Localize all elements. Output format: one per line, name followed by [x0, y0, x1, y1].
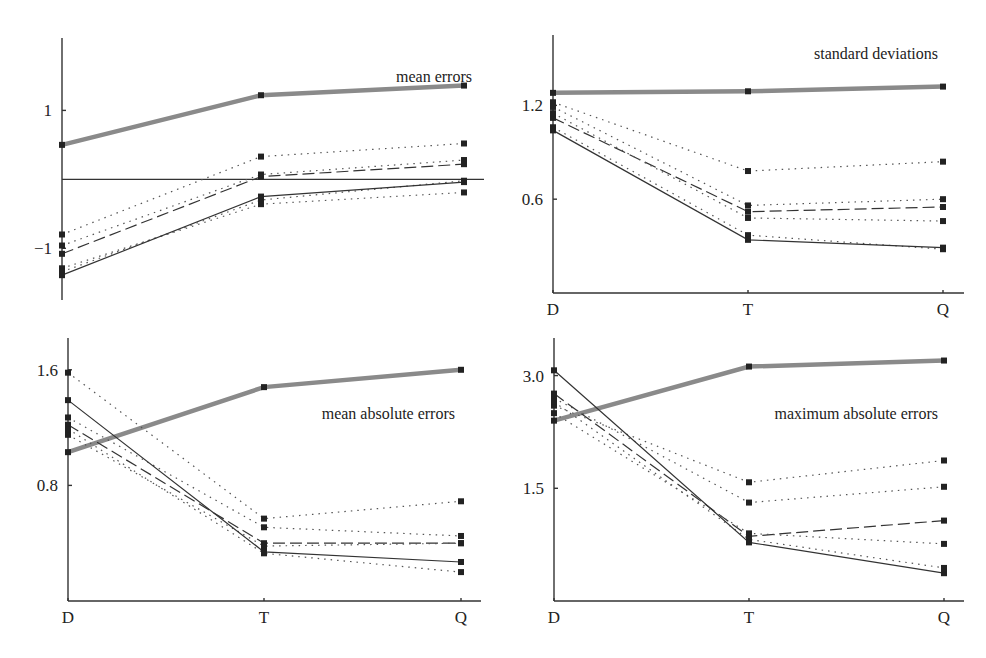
- data-point-marker: [59, 272, 65, 278]
- data-point-marker: [65, 370, 71, 376]
- data-point-marker: [940, 159, 946, 165]
- data-point-marker: [940, 218, 946, 224]
- data-point-marker: [941, 358, 947, 364]
- data-point-marker: [458, 559, 464, 565]
- series-line-dotted-c: [554, 413, 944, 544]
- data-point-marker: [551, 418, 557, 424]
- data-point-marker: [746, 500, 752, 506]
- data-point-marker: [551, 399, 557, 405]
- data-point-marker: [261, 543, 267, 549]
- data-point-marker: [746, 479, 752, 485]
- data-point-marker: [458, 498, 464, 504]
- x-tick-label: Q: [455, 608, 467, 627]
- data-point-marker: [550, 127, 556, 133]
- data-point-marker: [65, 397, 71, 403]
- data-point-marker: [59, 232, 65, 238]
- data-point-marker: [745, 202, 751, 208]
- data-point-marker: [550, 104, 556, 110]
- data-point-marker: [65, 426, 71, 432]
- series-line-dotted-b: [553, 107, 943, 206]
- data-point-marker: [745, 88, 751, 94]
- series-line-dashed: [553, 118, 943, 212]
- data-point-marker: [458, 533, 464, 539]
- data-point-marker: [458, 367, 464, 373]
- data-point-marker: [941, 570, 947, 576]
- data-point-marker: [261, 384, 267, 390]
- panel-title: maximum absolute errors: [774, 405, 938, 422]
- data-point-marker: [65, 414, 71, 420]
- x-tick-label: D: [547, 300, 559, 319]
- y-tick-label: 1.6: [37, 361, 58, 380]
- data-point-marker: [261, 549, 267, 555]
- data-point-marker: [261, 524, 267, 530]
- data-point-marker: [551, 410, 557, 416]
- data-point-marker: [551, 391, 557, 397]
- panel-maximum-absolute-errors: maximum absolute errors DTQ3.01.5: [523, 338, 964, 627]
- data-point-marker: [458, 540, 464, 546]
- data-point-marker: [461, 179, 467, 185]
- series-line-solid: [553, 130, 943, 247]
- data-point-marker: [551, 367, 557, 373]
- y-tick-label: 0.6: [522, 190, 543, 209]
- data-point-marker: [745, 168, 751, 174]
- x-tick-label: Q: [938, 608, 950, 627]
- data-point-marker: [746, 364, 752, 370]
- data-point-marker: [940, 84, 946, 90]
- data-point-marker: [940, 196, 946, 202]
- y-tick-label: −1: [34, 239, 52, 258]
- data-point-marker: [59, 142, 65, 148]
- data-point-marker: [550, 90, 556, 96]
- data-point-marker: [940, 204, 946, 210]
- data-point-marker: [941, 518, 947, 524]
- panel-title: mean absolute errors: [322, 405, 455, 422]
- data-point-marker: [941, 565, 947, 571]
- panel-mean-absolute-errors: mean absolute errors DTQ1.60.8: [37, 338, 481, 627]
- series-line-solid: [68, 400, 461, 562]
- data-point-marker: [461, 83, 467, 89]
- panel-title: standard deviations: [814, 45, 938, 62]
- x-tick-label: D: [548, 608, 560, 627]
- data-point-marker: [745, 215, 751, 221]
- data-point-marker: [258, 154, 264, 160]
- panel-title: mean errors: [396, 68, 472, 85]
- data-point-marker: [258, 92, 264, 98]
- figure-four-panel-line-charts: mean errors 1−1 standard deviations DTQ1…: [0, 0, 986, 658]
- data-point-marker: [941, 484, 947, 490]
- data-point-marker: [746, 539, 752, 545]
- x-tick-label: T: [259, 608, 270, 627]
- x-tick-label: Q: [937, 300, 949, 319]
- x-tick-label: D: [62, 608, 74, 627]
- data-point-marker: [745, 237, 751, 243]
- data-point-marker: [461, 161, 467, 167]
- data-point-marker: [258, 194, 264, 200]
- data-point-marker: [258, 174, 264, 180]
- data-point-marker: [461, 140, 467, 146]
- data-point-marker: [59, 251, 65, 257]
- data-point-marker: [746, 530, 752, 536]
- panel-mean-errors: mean errors 1−1: [34, 38, 484, 300]
- y-tick-label: 0.8: [37, 476, 58, 495]
- x-tick-label: T: [743, 300, 754, 319]
- data-point-marker: [550, 110, 556, 116]
- data-point-marker: [65, 449, 71, 455]
- data-point-marker: [65, 432, 71, 438]
- y-tick-label: 1.5: [523, 479, 544, 498]
- series-line-dotted-d: [553, 127, 943, 249]
- y-tick-label: 1: [44, 101, 53, 120]
- data-point-marker: [59, 243, 65, 249]
- data-point-marker: [941, 541, 947, 547]
- data-point-marker: [458, 569, 464, 575]
- data-point-marker: [261, 516, 267, 522]
- y-tick-label: 1.2: [522, 96, 543, 115]
- y-tick-label: 3.0: [523, 367, 544, 386]
- x-tick-label: T: [744, 608, 755, 627]
- data-point-marker: [940, 245, 946, 251]
- data-point-marker: [461, 189, 467, 195]
- data-point-marker: [941, 457, 947, 463]
- panel-standard-deviations: standard deviations DTQ1.20.6: [522, 35, 964, 319]
- data-point-marker: [745, 209, 751, 215]
